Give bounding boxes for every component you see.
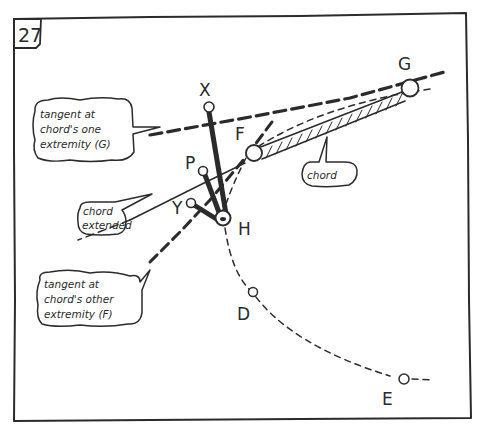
label-x: X bbox=[199, 80, 211, 100]
svg-text:chord: chord bbox=[307, 169, 337, 181]
point-g bbox=[402, 80, 419, 97]
label-h: H bbox=[238, 219, 251, 239]
svg-text:extended: extended bbox=[82, 219, 132, 231]
svg-text:chord's one: chord's one bbox=[40, 123, 101, 135]
tangent-chord-diagram: 27 X G F P Y H D E tangent at chord's on… bbox=[0, 0, 478, 427]
label-p: P bbox=[185, 153, 195, 173]
label-g: G bbox=[398, 54, 411, 74]
svg-text:chord: chord bbox=[83, 205, 113, 217]
callout-chord: chord bbox=[302, 137, 357, 187]
point-p bbox=[199, 167, 208, 176]
svg-text:chord's other: chord's other bbox=[44, 293, 114, 305]
point-h-center bbox=[220, 217, 226, 221]
svg-text:extremity (F): extremity (F) bbox=[44, 308, 113, 320]
curve-path-h-e bbox=[225, 228, 390, 376]
point-y bbox=[187, 199, 196, 208]
panel-number: 27 bbox=[18, 24, 42, 46]
callout-tangent-f: tangent at chord's other extremity (F) bbox=[37, 270, 150, 326]
label-e: E bbox=[382, 389, 393, 409]
callout-tangent-g: tangent at chord's one extremity (G) bbox=[33, 98, 160, 162]
point-e bbox=[399, 374, 409, 384]
point-x bbox=[204, 102, 214, 112]
rod-h-p bbox=[205, 175, 220, 215]
label-y: Y bbox=[171, 198, 183, 218]
svg-text:tangent at: tangent at bbox=[44, 278, 100, 290]
point-f bbox=[246, 145, 262, 161]
svg-text:tangent at: tangent at bbox=[40, 108, 96, 120]
curve-path-f-h bbox=[224, 158, 246, 210]
panel-frame bbox=[14, 13, 471, 421]
curve-path-tail bbox=[412, 379, 432, 380]
label-d: D bbox=[237, 304, 250, 324]
label-f: F bbox=[235, 124, 245, 144]
svg-text:extremity (G): extremity (G) bbox=[40, 138, 111, 150]
point-d bbox=[249, 288, 258, 297]
